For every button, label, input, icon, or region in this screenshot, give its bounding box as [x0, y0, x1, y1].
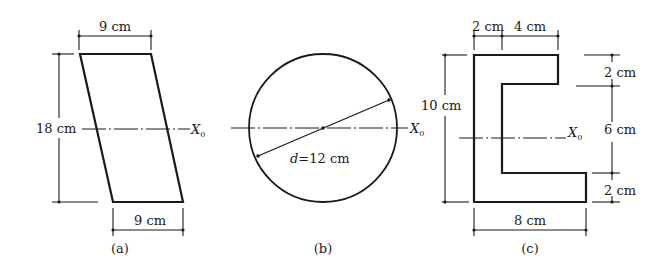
dim-bottom-width: 9 cm: [111, 208, 184, 236]
label-total-height: 10 cm: [421, 98, 461, 113]
panel-c: 2 cm 4 cm 10 cm X0: [421, 19, 636, 256]
label-flange-extension: 4 cm: [514, 19, 546, 34]
axis-label-a: X0: [190, 122, 205, 139]
caption-a: (a): [111, 241, 129, 256]
axis-label-b: X0: [409, 121, 424, 138]
label-lower-flange: 2 cm: [604, 183, 636, 198]
label-upper-flange: 2 cm: [604, 65, 636, 80]
label-diameter: dd=12 cm=12 cm: [290, 151, 350, 166]
dim-height: 18 cm: [36, 52, 98, 203]
parallelogram-shape: [80, 54, 183, 202]
panel-a: 9 cm 18 cm X0 9 cm (a): [36, 19, 205, 256]
diagram-svg: 9 cm 18 cm X0 9 cm (a): [0, 0, 646, 268]
label-flange-thickness: 2 cm: [472, 19, 504, 34]
label-top-width: 9 cm: [99, 19, 131, 34]
figure-canvas: 9 cm 18 cm X0 9 cm (a): [0, 0, 646, 268]
dim-top-width: 9 cm: [77, 19, 152, 50]
dim-total-height: 10 cm: [421, 53, 469, 203]
label-height: 18 cm: [36, 121, 76, 136]
center-point: [321, 126, 325, 130]
label-web-height: 6 cm: [604, 122, 636, 137]
label-bottom-width: 9 cm: [134, 213, 166, 228]
dim-bottom-width-c: 8 cm: [472, 208, 587, 236]
panel-b: X0 dd=12 cm=12 cm (b): [231, 54, 424, 256]
axis-label-c: X0: [567, 125, 582, 142]
caption-b: (b): [314, 241, 332, 256]
label-bottom-width-c: 8 cm: [514, 213, 546, 228]
dim-top: 2 cm 4 cm: [472, 19, 560, 50]
caption-c: (c): [521, 241, 538, 256]
